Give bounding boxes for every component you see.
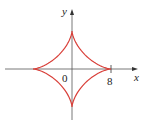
astroid-chart: y x 0 8 [0, 0, 144, 123]
y-axis-label: y [61, 5, 67, 17]
origin-label: 0 [62, 72, 68, 84]
y-axis-arrow [70, 9, 74, 15]
x-tick-label-8: 8 [107, 75, 113, 87]
x-axis-label: x [133, 71, 139, 83]
